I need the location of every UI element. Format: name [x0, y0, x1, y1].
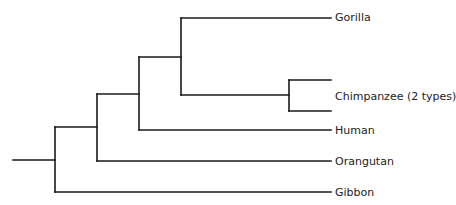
label-human: Human	[335, 125, 375, 137]
label-gibbon: Gibbon	[335, 187, 374, 199]
label-gorilla: Gorilla	[335, 12, 371, 24]
label-orangutan: Orangutan	[335, 156, 394, 168]
label-chimpanzee: Chimpanzee (2 types)	[335, 91, 456, 103]
